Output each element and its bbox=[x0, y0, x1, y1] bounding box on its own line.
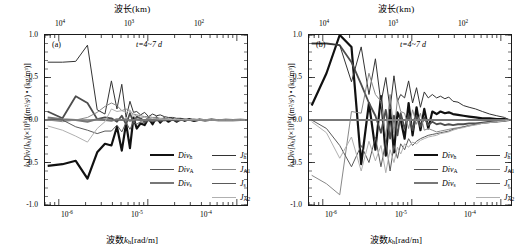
xtick-top-a-2: 102 bbox=[194, 18, 204, 28]
annotation-b: t=4~7 d bbox=[400, 40, 426, 49]
ytick-a-2: 0.0 bbox=[4, 115, 38, 124]
legend-line-swatch bbox=[212, 169, 236, 170]
legend-item[interactable]: Jh bbox=[212, 148, 250, 162]
legend-line-swatch bbox=[476, 197, 500, 198]
xtick-top-a-0: 104 bbox=[55, 18, 65, 28]
legend-item[interactable]: Divh bbox=[414, 148, 458, 162]
legend-item[interactable]: Divh bbox=[150, 148, 194, 162]
top-axis-title-a: 波长(km) bbox=[0, 2, 264, 15]
xtick-bottom-b-0: 10-6 bbox=[325, 209, 337, 219]
legend-b-left-column: DivhDivADivs bbox=[414, 148, 458, 190]
legend-line-swatch bbox=[414, 182, 438, 184]
annotation-a: t=4~7 d bbox=[136, 40, 162, 49]
legend-label: JA2 bbox=[504, 193, 514, 202]
legend-item[interactable]: JA2 bbox=[212, 190, 250, 204]
legend-item[interactable]: JA2 bbox=[476, 190, 514, 204]
legend-line-swatch bbox=[476, 183, 500, 184]
legend-label: JA1 bbox=[240, 165, 250, 174]
legend-label: Jh bbox=[240, 151, 246, 160]
xtick-bottom-a-1: 10-5 bbox=[131, 209, 143, 219]
legend-label: Divh bbox=[178, 151, 192, 160]
legend-label: DivA bbox=[442, 165, 458, 174]
legend-item[interactable]: DivA bbox=[150, 162, 194, 176]
ytick-b-2: 0.0 bbox=[268, 115, 302, 124]
legend-item[interactable]: Divs bbox=[150, 176, 194, 190]
legend-line-swatch bbox=[150, 154, 174, 156]
legend-label: JA1 bbox=[504, 165, 514, 174]
panel-a: 波长(km) khDiv[kh](×106)[(m²/s²) • (kg/m³)… bbox=[0, 0, 264, 247]
xtick-top-b-0: 104 bbox=[319, 18, 329, 28]
xtick-top-b-1: 103 bbox=[388, 18, 398, 28]
legend-item[interactable]: JA1 bbox=[212, 162, 250, 176]
xtick-bottom-b-2: 10-4 bbox=[464, 209, 476, 219]
ytick-b-3: -0.5 bbox=[268, 158, 302, 167]
xtick-bottom-a-2: 10-4 bbox=[200, 209, 212, 219]
legend-a-left-column: DivhDivADivs bbox=[150, 148, 194, 190]
ytick-b-1: 0.5 bbox=[268, 72, 302, 81]
legend-item[interactable]: Js bbox=[212, 176, 250, 190]
legend-b-right-column: JhJA1JsJA2 bbox=[476, 148, 514, 204]
panel-label-a: (a) bbox=[52, 40, 61, 49]
legend-item[interactable]: JA1 bbox=[476, 162, 514, 176]
panel-b: 波长(km) khDiv[kh](×106)[(m²/s²) • (kg/m³)… bbox=[264, 0, 528, 247]
ytick-a-1: 0.5 bbox=[4, 72, 38, 81]
legend-label: Divs bbox=[178, 179, 192, 188]
bottom-axis-title-a: 波数kh[rad/m] bbox=[0, 233, 264, 246]
series-J_h bbox=[312, 44, 510, 121]
ytick-b-4: -1.0 bbox=[268, 200, 302, 209]
legend-line-swatch bbox=[414, 154, 438, 156]
panel-label-b: (b) bbox=[316, 40, 325, 49]
xtick-bottom-b-1: 10-5 bbox=[395, 209, 407, 219]
legend-label: Divs bbox=[442, 179, 456, 188]
top-axis-title-b: 波长(km) bbox=[264, 2, 528, 15]
ytick-a-4: -1.0 bbox=[4, 200, 38, 209]
legend-label: Js bbox=[504, 179, 510, 188]
ytick-b-0: 1.0 bbox=[268, 30, 302, 39]
figure-root: 波长(km) khDiv[kh](×106)[(m²/s²) • (kg/m³)… bbox=[0, 0, 528, 247]
xtick-top-b-2: 102 bbox=[458, 18, 468, 28]
xtick-top-a-1: 103 bbox=[124, 18, 134, 28]
ytick-a-3: -0.5 bbox=[4, 158, 38, 167]
legend-item[interactable]: Js bbox=[476, 176, 514, 190]
legend-line-swatch bbox=[476, 155, 500, 156]
series-J_h bbox=[48, 45, 246, 120]
ytick-a-0: 1.0 bbox=[4, 30, 38, 39]
legend-line-swatch bbox=[212, 183, 236, 184]
legend-line-swatch bbox=[212, 197, 236, 198]
legend-label: Divh bbox=[442, 151, 456, 160]
legend-item[interactable]: DivA bbox=[414, 162, 458, 176]
legend-label: DivA bbox=[178, 165, 194, 174]
legend-label: Jh bbox=[504, 151, 510, 160]
legend-item[interactable]: Jh bbox=[476, 148, 514, 162]
legend-line-swatch bbox=[150, 169, 174, 170]
bottom-axis-title-b: 波数kh[rad/m] bbox=[264, 233, 528, 246]
legend-label: Js bbox=[240, 179, 246, 188]
xtick-bottom-a-0: 10-6 bbox=[61, 209, 73, 219]
series-J_s bbox=[48, 119, 246, 133]
legend-line-swatch bbox=[150, 182, 174, 184]
legend-line-swatch bbox=[212, 155, 236, 156]
legend-line-swatch bbox=[476, 169, 500, 170]
legend-item[interactable]: Divs bbox=[414, 176, 458, 190]
legend-label: JA2 bbox=[240, 193, 250, 202]
legend-line-swatch bbox=[414, 169, 438, 170]
legend-a-right-column: JhJA1JsJA2 bbox=[212, 148, 250, 204]
